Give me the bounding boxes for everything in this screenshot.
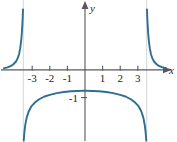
graph-canvas: -3-2-1123 -1 x y — [0, 0, 177, 142]
y-tick-labels: -1 — [69, 92, 78, 104]
x-tick-label: 2 — [117, 72, 123, 84]
y-tick-label: -1 — [69, 92, 78, 104]
y-axis-label: y — [89, 2, 95, 14]
x-tick-label: -2 — [45, 72, 54, 84]
x-axis-label: x — [168, 64, 174, 76]
x-tick-label: -1 — [63, 72, 72, 84]
function-graph-figure: -3-2-1123 -1 x y — [0, 0, 177, 142]
x-tick-label: 1 — [100, 72, 106, 84]
x-tick-label: -3 — [28, 72, 38, 84]
x-tick-label: 3 — [135, 72, 141, 84]
